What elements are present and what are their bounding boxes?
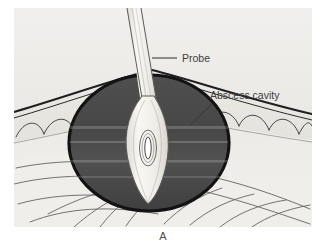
- abscess-probe-illustration: Probe Abscess cavity: [14, 8, 312, 227]
- figure-root: Probe Abscess cavity A: [0, 0, 326, 252]
- abscess-cavity-label: Abscess cavity: [210, 89, 280, 101]
- illustration-panel: Probe Abscess cavity: [14, 8, 312, 227]
- probe-label: Probe: [182, 52, 210, 64]
- figure-caption: A: [0, 230, 326, 242]
